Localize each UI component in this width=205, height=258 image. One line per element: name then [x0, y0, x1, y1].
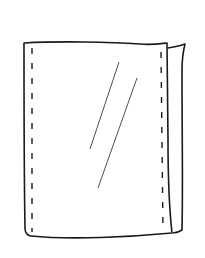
sleeve-body-outline [24, 42, 172, 238]
sleeve-fold-flap [168, 44, 185, 233]
plastic-sleeve-illustration [0, 0, 205, 258]
